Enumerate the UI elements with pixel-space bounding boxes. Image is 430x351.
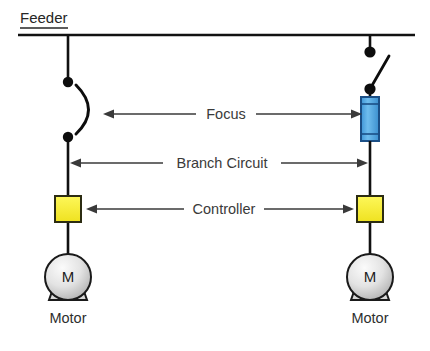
controller-box-right[interactable] <box>357 196 383 222</box>
motor-label-right: Motor <box>351 310 388 326</box>
diagram-canvas: Feeder M Motor <box>0 0 430 351</box>
focus-label: Focus <box>206 106 246 122</box>
right-branch-group: M Motor <box>347 35 393 326</box>
branch-circuit-label: Branch Circuit <box>176 155 267 171</box>
controller-label: Controller <box>193 201 256 217</box>
motor-right-group: M Motor <box>347 254 393 326</box>
dimension-focus: Focus <box>103 106 362 122</box>
motor-symbol-right: M <box>364 268 377 285</box>
controller-arrowhead-right <box>343 205 354 214</box>
left-branch-group: M Motor <box>45 35 91 326</box>
left-node-dot-bottom <box>63 132 73 142</box>
feeder-label: Feeder <box>20 9 68 26</box>
focus-arrowhead-left <box>103 110 114 119</box>
feeder-bus-group: Feeder <box>18 9 415 35</box>
electrical-one-line-diagram: Feeder M Motor <box>0 0 430 351</box>
circuit-breaker-arc-icon <box>76 85 89 134</box>
dimension-controller: Controller <box>86 201 354 217</box>
right-node-dot-top <box>364 46 375 57</box>
motor-symbol-left: M <box>62 268 75 285</box>
motor-left-group: M Motor <box>45 254 91 326</box>
dimension-branch-circuit: Branch Circuit <box>70 155 368 171</box>
branch-circuit-arrowhead-right <box>357 159 368 168</box>
controller-arrowhead-left <box>86 205 97 214</box>
controller-box-left[interactable] <box>55 196 81 222</box>
branch-circuit-arrowhead-left <box>70 159 81 168</box>
knife-switch-blade-icon[interactable] <box>370 56 389 89</box>
motor-label-left: Motor <box>49 310 86 326</box>
fuse-group <box>361 97 379 141</box>
left-node-dot-top <box>63 77 73 87</box>
